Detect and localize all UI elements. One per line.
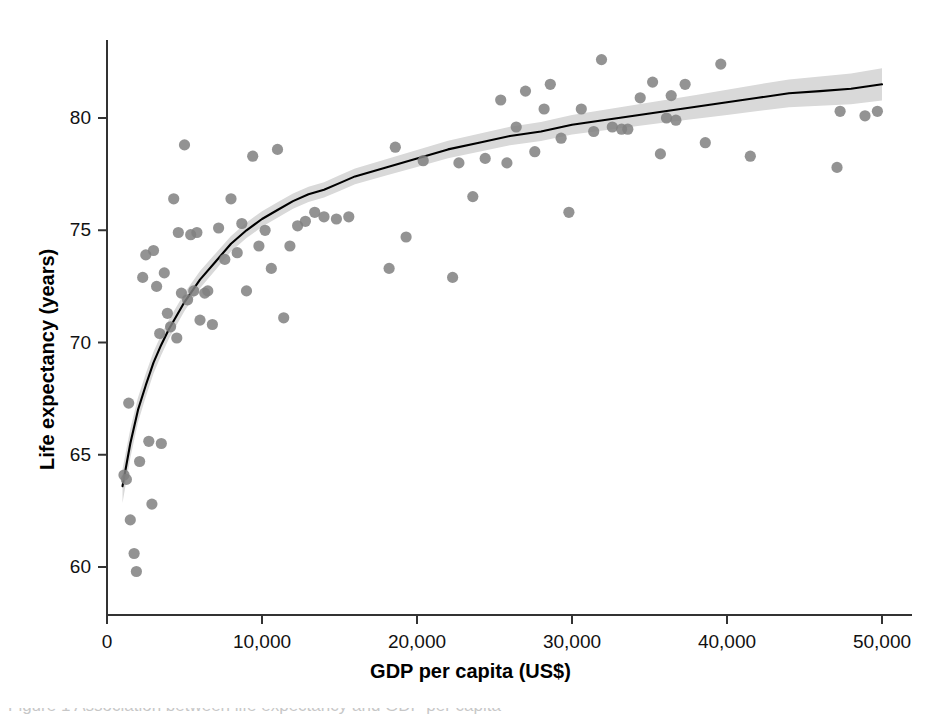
data-point bbox=[447, 272, 458, 283]
data-point bbox=[236, 218, 247, 229]
data-point bbox=[596, 54, 607, 65]
data-point bbox=[207, 319, 218, 330]
data-point bbox=[495, 94, 506, 105]
data-point bbox=[137, 272, 148, 283]
y-tick-label: 80 bbox=[49, 107, 91, 129]
x-axis-title: GDP per capita (US$) bbox=[0, 660, 941, 683]
data-point bbox=[232, 247, 243, 258]
data-point bbox=[343, 211, 354, 222]
data-point bbox=[213, 222, 224, 233]
data-point bbox=[151, 281, 162, 292]
data-point bbox=[418, 155, 429, 166]
data-point bbox=[511, 121, 522, 132]
data-point bbox=[179, 139, 190, 150]
data-point bbox=[745, 151, 756, 162]
data-point bbox=[171, 332, 182, 343]
data-point bbox=[284, 240, 295, 251]
data-point bbox=[173, 227, 184, 238]
confidence-band bbox=[123, 68, 883, 503]
data-point bbox=[148, 245, 159, 256]
data-point bbox=[143, 436, 154, 447]
data-point bbox=[168, 193, 179, 204]
data-point bbox=[121, 474, 132, 485]
data-point bbox=[700, 137, 711, 148]
data-point bbox=[635, 92, 646, 103]
data-point bbox=[331, 213, 342, 224]
data-point bbox=[661, 112, 672, 123]
data-point bbox=[666, 90, 677, 101]
data-point bbox=[162, 308, 173, 319]
data-point bbox=[520, 86, 531, 97]
data-point bbox=[539, 103, 550, 114]
x-axis-ticks bbox=[107, 615, 882, 624]
data-point bbox=[647, 77, 658, 88]
data-point bbox=[480, 153, 491, 164]
data-point bbox=[859, 110, 870, 121]
data-point bbox=[125, 514, 136, 525]
figure-caption: Figure 1 Association between life expect… bbox=[8, 708, 933, 716]
confidence-band-group bbox=[123, 68, 883, 503]
data-point bbox=[191, 227, 202, 238]
x-tick-label: 10,000 bbox=[233, 631, 291, 653]
data-point bbox=[390, 142, 401, 153]
data-point bbox=[501, 157, 512, 168]
x-tick-label: 50,000 bbox=[853, 631, 911, 653]
data-point bbox=[131, 566, 142, 577]
data-point bbox=[318, 211, 329, 222]
data-point bbox=[278, 312, 289, 323]
data-point bbox=[670, 115, 681, 126]
data-point bbox=[188, 285, 199, 296]
data-point bbox=[453, 157, 464, 168]
data-point bbox=[715, 59, 726, 70]
data-point bbox=[156, 438, 167, 449]
y-tick-label: 75 bbox=[49, 219, 91, 241]
data-point bbox=[159, 267, 170, 278]
plot-canvas bbox=[0, 0, 941, 720]
data-point bbox=[272, 144, 283, 155]
data-point bbox=[194, 315, 205, 326]
axis-lines-group bbox=[98, 40, 912, 624]
data-point bbox=[266, 263, 277, 274]
data-point bbox=[247, 151, 258, 162]
data-point bbox=[576, 103, 587, 114]
data-point bbox=[241, 285, 252, 296]
data-point bbox=[545, 79, 556, 90]
y-axis-title: Life expectancy (years) bbox=[36, 249, 59, 470]
data-point bbox=[165, 321, 176, 332]
scatter-plot: 010,00020,00030,00040,00050,000 60657075… bbox=[0, 0, 941, 720]
data-point bbox=[588, 126, 599, 137]
data-point bbox=[529, 146, 540, 157]
data-point bbox=[467, 191, 478, 202]
data-point bbox=[401, 231, 412, 242]
data-point bbox=[563, 207, 574, 218]
data-point bbox=[225, 193, 236, 204]
x-tick-label: 30,000 bbox=[543, 631, 601, 653]
data-point bbox=[253, 240, 264, 251]
y-tick-label: 60 bbox=[49, 556, 91, 578]
data-point bbox=[607, 121, 618, 132]
data-point bbox=[872, 106, 883, 117]
data-point bbox=[260, 225, 271, 236]
data-point bbox=[835, 106, 846, 117]
data-point bbox=[154, 328, 165, 339]
data-point bbox=[219, 254, 230, 265]
data-point bbox=[622, 124, 633, 135]
data-point bbox=[556, 133, 567, 144]
x-tick-label: 20,000 bbox=[388, 631, 446, 653]
y-axis-ticks bbox=[98, 118, 107, 567]
x-tick-label: 0 bbox=[102, 631, 113, 653]
data-point bbox=[831, 162, 842, 173]
data-point bbox=[146, 499, 157, 510]
data-point bbox=[384, 263, 395, 274]
x-tick-label: 40,000 bbox=[698, 631, 756, 653]
data-point bbox=[129, 548, 140, 559]
data-point bbox=[655, 148, 666, 159]
data-point bbox=[202, 285, 213, 296]
figure-gdp-life-expectancy: 010,00020,00030,00040,00050,000 60657075… bbox=[0, 0, 941, 720]
data-point bbox=[680, 79, 691, 90]
data-point bbox=[123, 398, 134, 409]
data-point bbox=[134, 456, 145, 467]
data-point bbox=[300, 216, 311, 227]
figure-caption-strip: Figure 1 Association between life expect… bbox=[0, 708, 941, 720]
